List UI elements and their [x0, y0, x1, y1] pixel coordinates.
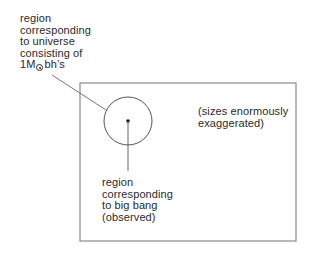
label-line: exaggerated): [198, 118, 288, 130]
label-line: to universe: [20, 36, 91, 48]
mass-prefix: 1M: [20, 58, 35, 70]
label-line: (sizes enormously: [198, 106, 288, 118]
label-line: to big bang: [102, 200, 173, 212]
universe-region-label: region corresponding to universe consist…: [20, 13, 91, 71]
label-line: (observed): [102, 212, 173, 224]
label-line-mass: 1Mbh’s: [20, 59, 91, 71]
scale-note-label: (sizes enormously exaggerated): [198, 106, 288, 129]
label-line: region: [102, 177, 173, 189]
sun-symbol-icon: [36, 64, 43, 71]
big-bang-region-label: region corresponding to big bang (observ…: [102, 177, 173, 223]
label-line: region: [20, 13, 91, 25]
leader-line-universe: [52, 75, 106, 110]
mass-suffix: bh’s: [44, 58, 64, 70]
